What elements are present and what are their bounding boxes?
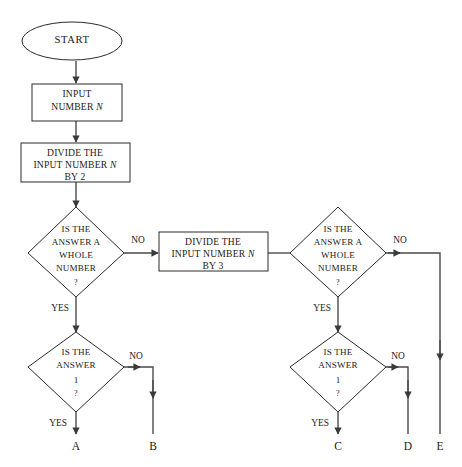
answer-one-right-line3: 1: [336, 375, 341, 385]
node-start[interactable]: START: [22, 22, 122, 60]
whole-number-right-question-mark: ?: [336, 278, 340, 287]
node-input-number[interactable]: INPUT NUMBER N: [32, 84, 122, 121]
answer-one-left-line2: ANSWER: [56, 360, 96, 370]
node-divide-by-3[interactable]: DIVIDE THE INPUT NUMBER N BY 3: [159, 232, 268, 271]
input-number-var: N: [95, 101, 103, 112]
answer-one-left-line3: 1: [74, 375, 79, 385]
terminal-label-layer: A B C D E: [72, 440, 444, 452]
divide-by-2-line2: INPUT NUMBER N: [33, 159, 117, 170]
edge-label-one-right-yes: YES: [311, 418, 329, 428]
divide-by-3-var: N: [247, 248, 255, 259]
edge-one-right-no-to-d: [386, 367, 408, 434]
start-label: START: [54, 34, 89, 45]
edge-label-one-left-yes: YES: [49, 418, 67, 428]
whole-number-right-line4: NUMBER: [318, 263, 359, 273]
terminal-label-d: D: [404, 440, 412, 452]
node-divide-by-2[interactable]: DIVIDE THE INPUT NUMBER N BY 2: [21, 143, 130, 182]
answer-one-right-question-mark: ?: [336, 389, 340, 398]
node-whole-number-right[interactable]: IS THE ANSWER A WHOLE NUMBER ?: [290, 207, 386, 297]
terminal-label-e: E: [436, 440, 443, 452]
edge-label-one-left-no: NO: [129, 351, 143, 361]
edge-label-one-right-no: NO: [391, 351, 405, 361]
whole-number-right-line1: IS THE: [323, 224, 352, 234]
flowchart-svg: START INPUT NUMBER N DIVIDE THE INPUT NU…: [0, 0, 462, 467]
terminal-label-b: B: [149, 440, 157, 452]
divide-by-2-line3: BY 2: [65, 171, 86, 182]
edge-label-whole-right-no: NO: [393, 235, 407, 245]
divide-by-3-line3: BY 3: [203, 260, 224, 271]
node-answer-one-right[interactable]: IS THE ANSWER 1 ?: [290, 332, 386, 412]
node-answer-one-left[interactable]: IS THE ANSWER 1 ?: [28, 332, 124, 412]
whole-number-right-line3: WHOLE: [321, 250, 355, 260]
edge-label-whole-right-yes: YES: [313, 303, 331, 313]
input-number-line1: INPUT: [62, 88, 91, 99]
edge-label-whole-left-yes: YES: [51, 303, 69, 313]
divide-by-2-var: N: [109, 159, 117, 170]
flowchart-canvas: START INPUT NUMBER N DIVIDE THE INPUT NU…: [0, 0, 462, 467]
answer-one-right-diamond-shape: [290, 332, 386, 412]
input-number-line2: NUMBER N: [51, 101, 103, 112]
node-whole-number-left[interactable]: IS THE ANSWER A WHOLE NUMBER ?: [28, 207, 124, 297]
divide-by-2-line2-text: INPUT NUMBER: [33, 159, 107, 170]
divide-by-3-line2: INPUT NUMBER N: [171, 248, 255, 259]
input-number-line2-text: NUMBER: [51, 101, 94, 112]
answer-one-left-line1: IS THE: [61, 347, 90, 357]
whole-number-left-line4: NUMBER: [56, 263, 97, 273]
whole-number-right-line2: ANSWER A: [314, 237, 363, 247]
whole-number-left-line1: IS THE: [61, 224, 90, 234]
answer-one-left-question-mark: ?: [74, 389, 78, 398]
divide-by-3-line2-text: INPUT NUMBER: [171, 248, 245, 259]
whole-number-left-line3: WHOLE: [59, 250, 93, 260]
answer-one-left-diamond-shape: [28, 332, 124, 412]
terminal-label-a: A: [72, 440, 81, 452]
answer-one-right-line1: IS THE: [323, 347, 352, 357]
whole-number-left-question-mark: ?: [74, 278, 78, 287]
answer-one-right-line2: ANSWER: [318, 360, 358, 370]
edge-label-whole-left-no: NO: [131, 235, 145, 245]
terminal-label-c: C: [334, 440, 342, 452]
edge-one-left-no-to-b: [124, 367, 153, 434]
divide-by-2-line1: DIVIDE THE: [47, 147, 103, 158]
divide-by-3-line1: DIVIDE THE: [185, 236, 241, 247]
whole-number-left-line2: ANSWER A: [52, 237, 101, 247]
edge-whole-right-no-to-e: [386, 253, 440, 434]
